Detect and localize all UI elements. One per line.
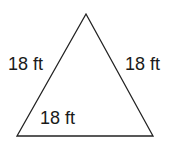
left-side-label: 18 ft	[8, 55, 43, 73]
triangle	[17, 14, 153, 136]
bottom-side-label: 18 ft	[40, 109, 75, 127]
right-side-label: 18 ft	[125, 55, 160, 73]
